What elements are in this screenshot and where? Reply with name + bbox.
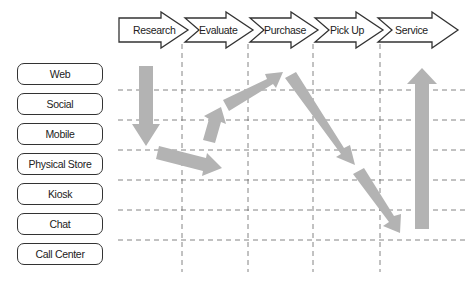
channel-call-center: Call Center — [17, 243, 103, 265]
channel-physical-store: Physical Store — [17, 153, 103, 175]
journey-arrow-up-evaluate — [203, 107, 226, 143]
stage-pickup-label: Pick Up — [330, 24, 365, 36]
journey-arrow-right-down-pickup — [285, 72, 355, 165]
channel-chat: Chat — [17, 213, 103, 235]
channel-label: Chat — [50, 218, 71, 230]
channel-label: Physical Store — [29, 158, 92, 170]
stage-research-label: Research — [133, 24, 176, 36]
channel-kiosk: Kiosk — [17, 183, 103, 205]
channel-label: Call Center — [35, 248, 84, 260]
stage-evaluate-label: Evaluate — [199, 24, 238, 36]
journey-arrows — [132, 66, 437, 233]
channel-label: Social — [47, 98, 74, 110]
journey-arrow-right-up-purchase — [223, 72, 283, 111]
channel-label: Mobile — [45, 128, 74, 140]
journey-arrow-right-down-evaluate — [156, 146, 222, 176]
stage-purchase-label: Purchase — [264, 24, 306, 36]
channel-web: Web — [17, 63, 103, 85]
channel-social: Social — [17, 93, 103, 115]
journey-arrow-up-service — [407, 68, 437, 229]
channel-label: Kiosk — [48, 188, 72, 200]
stage-service-label: Service — [395, 24, 428, 36]
channel-mobile: Mobile — [17, 123, 103, 145]
channel-label: Web — [50, 68, 71, 80]
journey-arrow-down-research — [132, 66, 160, 146]
journey-arrow-right-down-callcenter — [353, 168, 401, 233]
